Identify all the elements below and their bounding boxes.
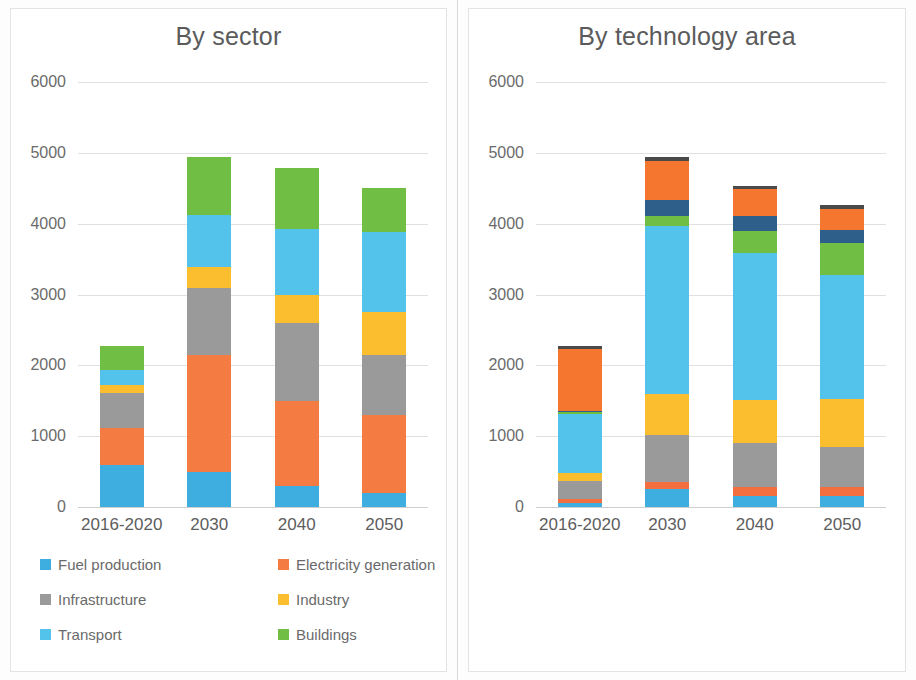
bar-segment xyxy=(558,411,602,412)
bar-segment xyxy=(558,473,602,481)
bar-group-by-technology-area xyxy=(536,82,886,507)
stacked-bar xyxy=(733,186,777,507)
bar-segment xyxy=(187,267,231,288)
stacked-bar xyxy=(645,157,689,507)
bar-segment xyxy=(733,216,777,231)
bar-segment xyxy=(362,493,406,507)
stacked-bar xyxy=(558,346,602,508)
bar-segment xyxy=(733,231,777,253)
legend-label: Transport xyxy=(58,626,122,643)
legend-label: Buildings xyxy=(296,626,357,643)
legend-item[interactable]: Industry xyxy=(278,591,349,608)
legend-label: Infrastructure xyxy=(58,591,146,608)
bar-segment xyxy=(820,209,864,230)
bar-segment xyxy=(645,482,689,489)
bar-segment xyxy=(733,400,777,443)
y-axis-tick-label: 1000 xyxy=(30,427,66,445)
legend-item[interactable]: Electricity generation xyxy=(278,556,435,573)
bar-segment xyxy=(187,472,231,507)
bar-segment xyxy=(187,288,231,355)
bar-segment xyxy=(820,275,864,400)
bar-segment xyxy=(362,232,406,312)
x-axis-category-label: 2030 xyxy=(648,515,686,535)
bar-segment xyxy=(820,487,864,496)
bar-segment xyxy=(187,157,231,215)
bar-segment xyxy=(100,385,144,393)
y-axis-tick-label: 2000 xyxy=(30,356,66,374)
x-axis-category-label: 2030 xyxy=(190,515,228,535)
legend-item[interactable]: Buildings xyxy=(278,626,357,643)
bar-segment xyxy=(558,349,602,411)
y-axis-tick-label: 1000 xyxy=(488,427,524,445)
legend-item[interactable]: Fuel production xyxy=(40,556,161,573)
bar-segment xyxy=(820,205,864,209)
x-axis-category-label: 2050 xyxy=(365,515,403,535)
y-axis-tick-label: 4000 xyxy=(30,215,66,233)
legend-label: Fuel production xyxy=(58,556,161,573)
bar-segment xyxy=(362,355,406,415)
bar-segment xyxy=(820,243,864,275)
bar-segment xyxy=(645,216,689,226)
plot-area-by-sector: 0100020003000400050006000 2016-202020302… xyxy=(78,82,428,507)
bar-segment xyxy=(558,499,602,504)
legend-swatch-icon xyxy=(40,629,51,640)
x-axis-category-label: 2040 xyxy=(278,515,316,535)
bar-segment xyxy=(100,393,144,428)
chart-title-by-sector: By sector xyxy=(0,22,457,51)
x-axis-labels-right: 2016-2020203020402050 xyxy=(536,507,886,541)
x-axis-labels-left: 2016-2020203020402050 xyxy=(78,507,428,541)
legend-label: Electricity generation xyxy=(296,556,435,573)
bar-segment xyxy=(733,487,777,496)
stacked-bar xyxy=(362,188,406,507)
y-axis-tick-label: 5000 xyxy=(30,144,66,162)
chart-panel-by-sector: By sector 0100020003000400050006000 2016… xyxy=(0,0,458,680)
x-axis-category-label: 2016-2020 xyxy=(539,515,620,535)
bar-segment xyxy=(100,428,144,465)
bar-segment xyxy=(645,435,689,482)
bar-segment xyxy=(820,399,864,446)
bar-segment xyxy=(275,168,319,228)
stacked-bar xyxy=(820,205,864,507)
bar-segment xyxy=(362,415,406,493)
y-axis-tick-label: 0 xyxy=(57,498,66,516)
legend-swatch-icon xyxy=(278,594,289,605)
chart-panel-by-technology-area: By technology area 010002000300040005000… xyxy=(458,0,916,680)
y-axis-tick-label: 0 xyxy=(515,498,524,516)
bar-segment xyxy=(558,414,602,474)
legend-item[interactable]: Transport xyxy=(40,626,122,643)
legend-swatch-icon xyxy=(278,629,289,640)
bar-segment xyxy=(733,186,777,189)
bar-segment xyxy=(733,189,777,216)
bar-segment xyxy=(645,161,689,199)
bar-segment xyxy=(362,188,406,232)
bar-segment xyxy=(275,323,319,401)
bar-segment xyxy=(558,412,602,413)
bar-segment xyxy=(187,355,231,472)
bar-group-by-sector xyxy=(78,82,428,507)
bar-segment xyxy=(558,346,602,350)
y-axis-tick-label: 6000 xyxy=(488,73,524,91)
bar-segment xyxy=(645,200,689,216)
legend-label: Industry xyxy=(296,591,349,608)
bar-segment xyxy=(362,312,406,355)
bar-segment xyxy=(733,496,777,507)
legend-item[interactable]: Infrastructure xyxy=(40,591,146,608)
x-axis-category-label: 2016-2020 xyxy=(81,515,162,535)
y-axis-tick-label: 3000 xyxy=(488,286,524,304)
bar-segment xyxy=(820,447,864,487)
bar-segment xyxy=(275,486,319,507)
figure-root: By sector 0100020003000400050006000 2016… xyxy=(0,0,916,680)
x-axis-category-label: 2050 xyxy=(823,515,861,535)
stacked-bar xyxy=(275,168,319,507)
stacked-bar xyxy=(100,346,144,508)
y-axis-tick-label: 6000 xyxy=(30,73,66,91)
bar-segment xyxy=(187,215,231,267)
bar-segment xyxy=(645,489,689,507)
bar-segment xyxy=(275,229,319,295)
y-axis-tick-label: 5000 xyxy=(488,144,524,162)
bar-segment xyxy=(645,226,689,394)
bar-segment xyxy=(558,481,602,499)
bar-segment xyxy=(820,230,864,243)
y-axis-tick-label: 2000 xyxy=(488,356,524,374)
bar-segment xyxy=(275,295,319,323)
